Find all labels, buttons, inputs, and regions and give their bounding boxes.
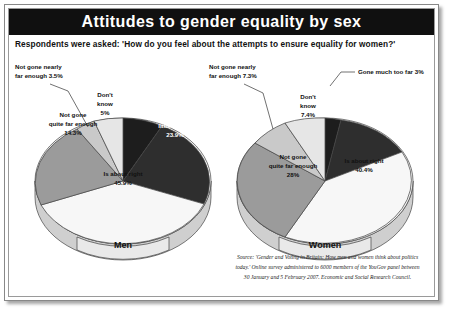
men-label-gone-a-little-too-far-value: 23.9% [166, 131, 184, 138]
leader-line-women-not-gone-nearly-far-enough [244, 84, 273, 129]
sex-label-women: Women [309, 240, 341, 250]
page-title: Attitudes to gender equality by sex [9, 9, 434, 35]
women-label-gone-a-little-too-far-line2: little too far [344, 104, 378, 111]
men-label-is-about-right-value: 45.9% [114, 179, 132, 186]
men-label-not-gone-nearly-far-enough-line2: far enough 3.5% [15, 72, 63, 79]
leader-line-women-gone-much-too-far [330, 72, 355, 86]
men-label-not-gone-quite-far-enough-line2: quite far enough [49, 120, 98, 127]
source-line-2: today.' Online survey administered to 60… [220, 263, 435, 273]
men-label-gone-much-too-far-line1: Gone much [128, 83, 162, 90]
chart-title-bar: Attitudes to gender equality by sex [9, 9, 434, 35]
pie-chart-women: Women [237, 72, 413, 260]
men-label-dont-know-line1: Don't [97, 91, 113, 98]
women-label-dont-know-value: 7.4% [301, 111, 316, 118]
women-label-not-gone-quite-far-enough-value: 28% [287, 171, 300, 178]
women-label-gone-much-too-far: Gone much too far 3% [358, 68, 424, 75]
men-label-not-gone-quite-far-enough-value: 14.3% [64, 129, 82, 136]
men-label-gone-a-little-too-far-line1: Gone a [165, 113, 187, 120]
source-line-1: Source: 'Gender and Voting in Britain: H… [220, 253, 435, 263]
survey-question: Respondents were asked: 'How do you feel… [15, 39, 428, 49]
women-label-dont-know-line1: Don't [300, 93, 316, 100]
women-label-not-gone-nearly-far-enough-line1: Not gone nearly [209, 63, 256, 70]
source-note: Source: 'Gender and Voting in Britain: H… [220, 253, 435, 282]
chart-card: Attitudes to gender equality by sex Resp… [4, 4, 439, 301]
men-label-dont-know-line2: know [97, 100, 113, 107]
men-label-gone-much-too-far-line2: too far [135, 92, 155, 99]
women-label-not-gone-quite-far-enough-line1: Not gone [280, 153, 307, 160]
men-label-not-gone-nearly-far-enough-line1: Not gone nearly [15, 63, 62, 70]
women-label-gone-a-little-too-far-line1: Gone a [351, 95, 373, 102]
women-label-not-gone-quite-far-enough-line2: quite far enough [269, 162, 318, 169]
men-label-gone-a-little-too-far-line2: little too far [158, 122, 192, 129]
men-label-dont-know-value: 5% [101, 109, 110, 116]
source-line-3: 30 January and 5 February 2007. Economic… [220, 273, 435, 283]
women-label-is-about-right-line1: Is about right [344, 157, 383, 164]
men-label-gone-much-too-far-value: 7.3% [138, 101, 153, 108]
women-label-gone-a-little-too-far-value: 14% [355, 113, 368, 120]
women-label-dont-know-line2: know [300, 102, 316, 109]
women-label-is-about-right-value: 40.4% [355, 166, 373, 173]
sex-label-men: Men [114, 240, 132, 250]
men-label-not-gone-quite-far-enough-line1: Not gone [60, 111, 87, 118]
men-label-is-about-right-line1: Is about right [103, 170, 142, 177]
women-label-not-gone-nearly-far-enough-line2: far enough 7.3% [209, 72, 257, 79]
